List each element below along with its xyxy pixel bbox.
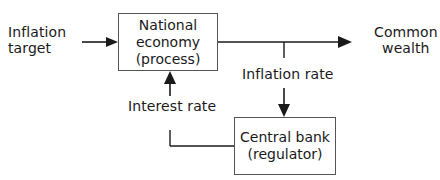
interest-rate-label: Interest rate	[128, 98, 216, 114]
process-box-line2: economy	[136, 34, 200, 51]
regulator-box: Central bank (regulator)	[234, 117, 336, 175]
regulator-box-line1: Central bank	[240, 129, 330, 146]
output-label: Common wealth	[374, 24, 438, 56]
control-arrowhead-icon	[164, 71, 176, 84]
input-arrowhead-icon	[106, 37, 118, 47]
output-label-line2: wealth	[374, 40, 438, 56]
input-label-line2: target	[8, 40, 66, 56]
input-label-line1: Inflation	[8, 24, 66, 40]
process-box: National economy (process)	[118, 13, 218, 71]
output-arrowhead-icon	[338, 36, 352, 48]
inflation-rate-label: Inflation rate	[242, 66, 334, 82]
output-label-line1: Common	[374, 24, 438, 40]
input-label: Inflation target	[8, 24, 66, 56]
measure-arrowhead-icon	[278, 104, 290, 117]
process-box-line1: National	[139, 17, 197, 34]
regulator-box-line2: (regulator)	[247, 146, 322, 163]
process-box-line3: (process)	[136, 51, 201, 68]
